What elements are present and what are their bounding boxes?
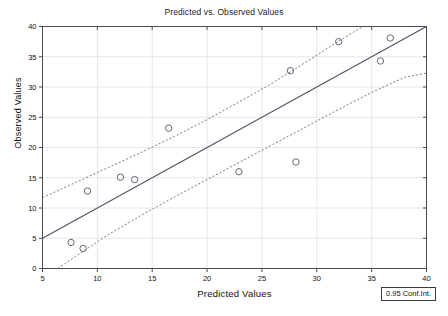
scatter-point: [165, 125, 171, 131]
regression-line: [43, 27, 427, 239]
svg-text:35: 35: [367, 274, 375, 283]
chart-container: Predicted vs. Observed Values 0510152025…: [0, 0, 448, 316]
scatter-point: [80, 245, 86, 251]
scatter-point: [336, 38, 342, 44]
scatter-point: [84, 188, 90, 194]
conf-band-upper-line: [43, 27, 363, 198]
svg-text:5: 5: [32, 234, 36, 243]
x-axis-tick-labels: 510152025303540: [40, 274, 430, 283]
scatter-point: [377, 58, 383, 64]
scatter-point: [236, 169, 242, 175]
scatter-point: [293, 159, 299, 165]
scatter-point: [68, 239, 74, 245]
svg-text:40: 40: [28, 22, 36, 31]
svg-text:25: 25: [258, 274, 266, 283]
y-axis-tick-labels: 0510152025303540: [28, 22, 36, 273]
plot-area: 0510152025303540 510152025303540: [0, 0, 448, 316]
x-axis-label: Predicted Values: [42, 288, 427, 299]
svg-text:20: 20: [28, 143, 36, 152]
svg-text:10: 10: [28, 204, 36, 213]
scatter-markers: [68, 35, 394, 252]
svg-text:30: 30: [28, 83, 36, 92]
svg-text:5: 5: [40, 274, 44, 283]
svg-text:30: 30: [313, 274, 321, 283]
svg-text:25: 25: [28, 113, 36, 122]
legend-conf-int: 0.95 Conf.Int.: [381, 287, 436, 301]
svg-text:10: 10: [93, 274, 101, 283]
scatter-point: [387, 35, 393, 41]
svg-text:40: 40: [422, 274, 430, 283]
gridlines: [43, 27, 427, 269]
svg-text:20: 20: [203, 274, 211, 283]
svg-text:0: 0: [32, 264, 36, 273]
svg-text:15: 15: [148, 274, 156, 283]
svg-text:15: 15: [28, 174, 36, 183]
scatter-point: [117, 174, 123, 180]
y-axis-label: Observed Values: [13, 43, 23, 183]
svg-text:35: 35: [28, 53, 36, 62]
